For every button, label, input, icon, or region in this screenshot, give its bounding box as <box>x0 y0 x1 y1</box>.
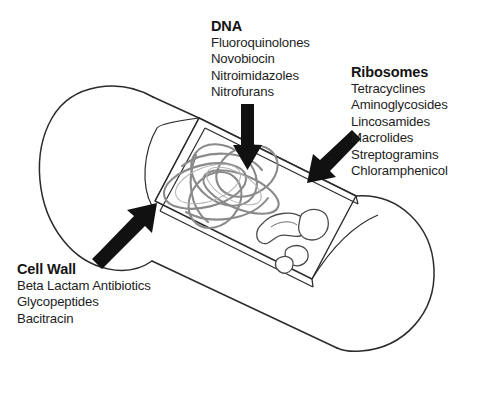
cutaway-window <box>155 118 356 279</box>
label-title-dna: DNA <box>211 18 310 34</box>
label-item-novobiocin: Novobiocin <box>211 51 310 67</box>
label-item-bacitracin: Bacitracin <box>17 311 151 327</box>
label-item-chloramphenicol: Chloramphenicol <box>351 163 448 179</box>
label-title-ribosomes: Ribosomes <box>351 64 448 80</box>
label-item-streptogramins: Streptogramins <box>351 147 448 163</box>
label-item-fluoroquinolones: Fluoroquinolones <box>211 35 310 51</box>
label-item-macrolides: Macrolides <box>351 130 448 146</box>
label-item-beta-lactam-antibiotics: Beta Lactam Antibiotics <box>17 278 151 294</box>
label-block-ribosomes: Ribosomes Tetracyclines Aminoglycosides … <box>351 64 448 179</box>
label-item-aminoglycosides: Aminoglycosides <box>351 97 448 113</box>
diagram-canvas: DNA Fluoroquinolones Novobiocin Nitroimi… <box>0 0 481 394</box>
diagonal-arrow-to-cell-wall <box>92 203 157 269</box>
label-item-nitroimidazoles: Nitroimidazoles <box>211 68 310 84</box>
label-title-cell-wall: Cell Wall <box>17 261 151 277</box>
label-block-cell-wall: Cell Wall Beta Lactam Antibiotics Glycop… <box>17 261 151 327</box>
label-item-lincosamides: Lincosamides <box>351 114 448 130</box>
label-block-dna: DNA Fluoroquinolones Novobiocin Nitroimi… <box>211 18 310 101</box>
label-item-tetracyclines: Tetracyclines <box>351 81 448 97</box>
label-item-glycopeptides: Glycopeptides <box>17 294 151 310</box>
label-item-nitrofurans: Nitrofurans <box>211 84 310 100</box>
